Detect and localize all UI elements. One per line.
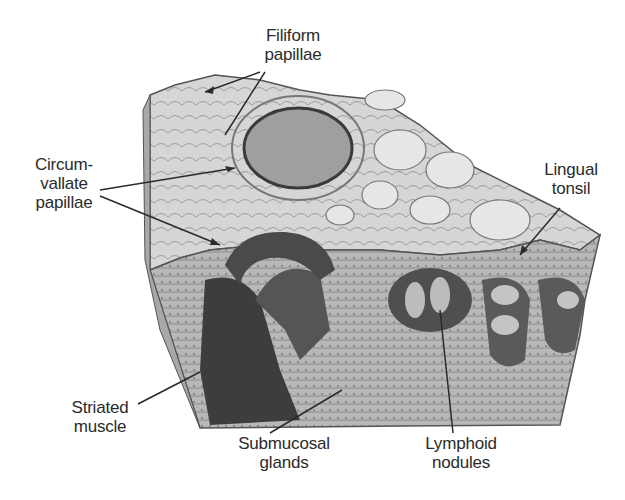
label-lymphoid-nodules: Lymphoid nodules bbox=[418, 434, 504, 472]
label-circumvallate-papillae: Circum- vallate papillae bbox=[28, 155, 100, 212]
label-line: glands bbox=[236, 453, 332, 472]
label-filiform-papillae: Filiform papillae bbox=[258, 26, 328, 64]
label-line: Filiform bbox=[258, 26, 328, 45]
label-line: Submucosal bbox=[236, 434, 332, 453]
label-lingual-tonsil: Lingual tonsil bbox=[536, 160, 606, 198]
label-line: papillae bbox=[258, 45, 328, 64]
label-line: tonsil bbox=[536, 179, 606, 198]
label-line: papillae bbox=[28, 193, 100, 212]
label-line: Striated bbox=[64, 398, 136, 417]
label-submucosal-glands: Submucosal glands bbox=[236, 434, 332, 472]
label-line: muscle bbox=[64, 417, 136, 436]
circumvallate-papilla-top bbox=[244, 108, 352, 188]
label-line: Circum- bbox=[28, 155, 100, 174]
label-striated-muscle: Striated muscle bbox=[64, 398, 136, 436]
label-line: nodules bbox=[418, 453, 504, 472]
label-line: vallate bbox=[28, 174, 100, 193]
label-line: Lingual bbox=[536, 160, 606, 179]
label-line: Lymphoid bbox=[418, 434, 504, 453]
